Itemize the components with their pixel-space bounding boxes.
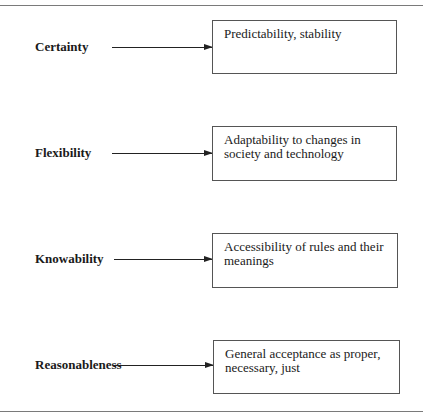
arrow-knowability	[114, 259, 212, 260]
description-flexibility: Adaptability to changes in society and t…	[224, 132, 361, 161]
box-flexibility: Adaptability to changes in society and t…	[212, 126, 397, 181]
arrow-certainty	[112, 47, 212, 48]
box-certainty: Predictability, stability	[212, 20, 397, 74]
description-certainty: Predictability, stability	[224, 26, 342, 41]
bottom-rule	[0, 411, 423, 412]
label-reasonableness: Reasonableness	[35, 358, 122, 372]
arrow-reasonableness	[114, 365, 213, 366]
description-reasonableness: General acceptance as proper, necessary,…	[225, 346, 380, 375]
label-flexibility: Flexibility	[35, 146, 91, 160]
box-reasonableness: General acceptance as proper, necessary,…	[213, 340, 400, 394]
arrow-flexibility	[112, 153, 212, 154]
box-knowability: Accessibility of rules and their meaning…	[212, 233, 398, 288]
label-certainty: Certainty	[35, 40, 88, 54]
label-knowability: Knowability	[35, 252, 104, 266]
top-rule	[0, 5, 423, 6]
description-knowability: Accessibility of rules and their meaning…	[224, 239, 384, 268]
